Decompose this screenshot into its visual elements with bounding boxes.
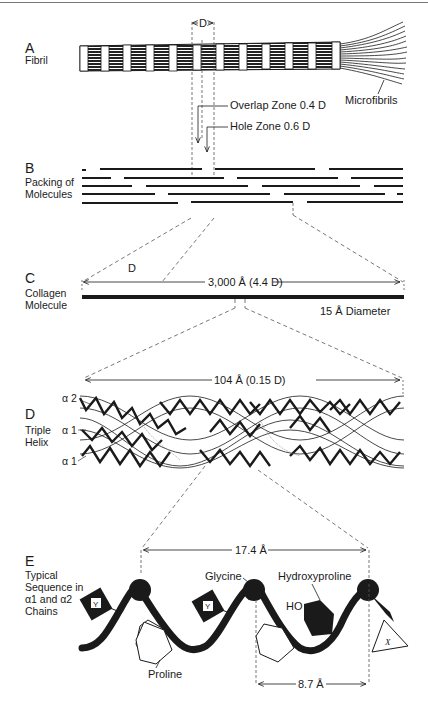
zoom-guides-de <box>142 466 368 548</box>
glycine-residue-3 <box>357 579 379 601</box>
repeat-length-label: 17.4 Å <box>235 544 267 557</box>
chain-label-alpha1-a: α 1 <box>62 424 77 437</box>
molecule-packing <box>82 169 403 203</box>
panel-b-letter: B <box>25 160 34 176</box>
y-residue-label-2: Y <box>205 600 210 613</box>
y-residue-label-1: Y <box>93 598 98 611</box>
d-period-label: D <box>199 17 207 30</box>
hydroxyproline-label: Hydroxyproline <box>278 570 351 583</box>
panel-d-title-line2: Helix <box>25 436 48 449</box>
helix-length-label: 104 Å (0.15 D) <box>214 374 286 387</box>
panel-c-letter: C <box>25 270 35 286</box>
panel-d-letter: D <box>25 406 35 422</box>
molecule-diameter-label: 15 Å Diameter <box>320 305 390 318</box>
triple-helix <box>80 396 404 468</box>
zone-leaders <box>198 106 228 152</box>
half-repeat-label: 8.7 Å <box>298 678 324 691</box>
d-label-c: D <box>128 262 136 275</box>
glycine-label: Glycine <box>205 570 242 583</box>
glycine-residue-2 <box>243 579 265 601</box>
microfibrils-label: Microfibrils <box>345 94 398 107</box>
proline-label: Proline <box>148 668 182 681</box>
panel-e-letter: E <box>25 553 34 569</box>
hydroxyproline-ring <box>304 600 334 636</box>
molecule-length-label: 3,000 Å (4.4 D) <box>208 276 283 289</box>
overlap-zone-label: Overlap Zone 0.4 D <box>230 99 326 112</box>
glycine-residue-1 <box>129 579 151 601</box>
panel-a-title: Fibril <box>25 54 48 67</box>
fibril-diagram <box>80 22 407 94</box>
panel-c-title-line2: Molecule <box>25 299 67 312</box>
chain-label-alpha2: α 2 <box>62 392 77 405</box>
collagen-molecule-rod <box>82 295 404 299</box>
x-side-chain <box>370 594 394 622</box>
hole-zone-label: Hole Zone 0.6 D <box>230 120 310 133</box>
chain-label-alpha1-b: α 1 <box>62 455 77 468</box>
panel-e-title-line4: Chains <box>25 605 58 618</box>
panel-b-title-line2: Molecules <box>25 188 72 201</box>
ho-label: HO <box>286 600 303 613</box>
x-residue-label: X <box>385 636 391 649</box>
proline-ring-2 <box>256 624 294 662</box>
